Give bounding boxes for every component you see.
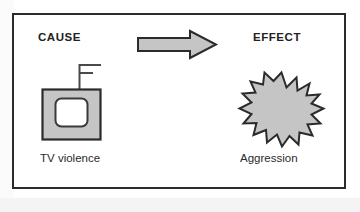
cause-caption: TV violence xyxy=(40,152,100,164)
effect-heading: EFFECT xyxy=(253,31,301,43)
effect-caption: Aggression xyxy=(240,152,298,164)
scan-edge-bottom xyxy=(0,198,360,212)
cause-heading: CAUSE xyxy=(38,31,81,43)
cause-effect-diagram: CAUSE EFFECT TV violence Aggression xyxy=(0,0,360,212)
